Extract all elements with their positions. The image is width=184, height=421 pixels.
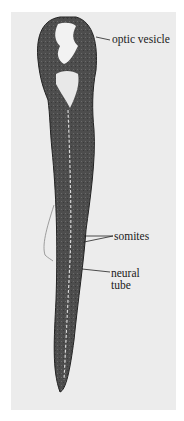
label-somites: somites	[114, 230, 149, 242]
label-optic-vesicle: optic vesicle	[112, 33, 170, 45]
label-neural-tube-2: tube	[111, 279, 131, 291]
embryo-image	[0, 0, 184, 421]
label-neural-tube-1: neural	[111, 267, 140, 279]
